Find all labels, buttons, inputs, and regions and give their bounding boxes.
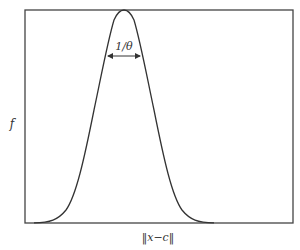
y-axis-label: f	[9, 117, 17, 131]
gaussian-figure: 1/θ f ‖x−c‖	[0, 0, 300, 250]
x-axis-label: ‖x−c‖	[142, 231, 175, 245]
annotation-label: 1/θ	[115, 40, 133, 53]
plot-frame	[25, 10, 293, 223]
